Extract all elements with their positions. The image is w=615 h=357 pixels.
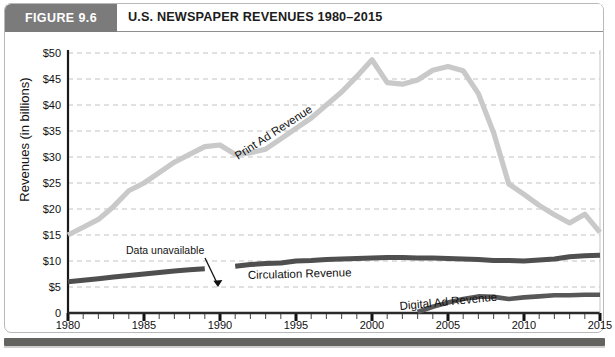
series-label: Digital Ad Revenue (399, 291, 498, 312)
figure-title: U.S. NEWSPAPER REVENUES 1980–2015 (128, 10, 382, 24)
annotation-arrowhead-icon (213, 280, 222, 287)
figure-number-label: FIGURE 9.6 (25, 11, 97, 25)
y-tick-label: $5 (49, 281, 61, 293)
y-tick-label: $25 (43, 177, 61, 189)
y-axis-title: Revenues (in billions) (17, 20, 32, 260)
y-tick-label: $45 (43, 73, 61, 85)
y-tick-label: $15 (43, 229, 61, 241)
plot-area: $50$45$40$35$30$25$20$15$10$50 198019851… (0, 32, 615, 330)
series-inline-labels: Print Ad RevenueCirculation RevenueDigit… (233, 103, 498, 312)
series-label: Print Ad Revenue (233, 103, 315, 162)
series-label: Circulation Revenue (248, 266, 352, 281)
series-line (68, 269, 205, 282)
y-tick-label: $20 (43, 203, 61, 215)
y-tick-label: $35 (43, 125, 61, 137)
chart-svg: $50$45$40$35$30$25$20$15$10$50 198019851… (0, 32, 615, 330)
annotation-label: Data unavailable (126, 244, 204, 256)
figure-container: FIGURE 9.6 U.S. NEWSPAPER REVENUES 1980–… (0, 0, 615, 357)
series-line (235, 255, 600, 266)
annotation-data-unavailable: Data unavailable (126, 244, 222, 287)
y-tick-label: $30 (43, 151, 61, 163)
y-tick-label: $10 (43, 255, 61, 267)
y-tick-label: $50 (43, 47, 61, 59)
y-tick-label: 0 (55, 307, 61, 319)
figure-bottom-bar (4, 338, 605, 346)
y-axis-ticklabels: $50$45$40$35$30$25$20$15$10$50 (43, 47, 61, 319)
y-tick-label: $40 (43, 99, 61, 111)
figure-bottom-shadow (4, 346, 605, 348)
x-axis-ticklabels: 19801985199019952000200520102015 (56, 319, 612, 330)
